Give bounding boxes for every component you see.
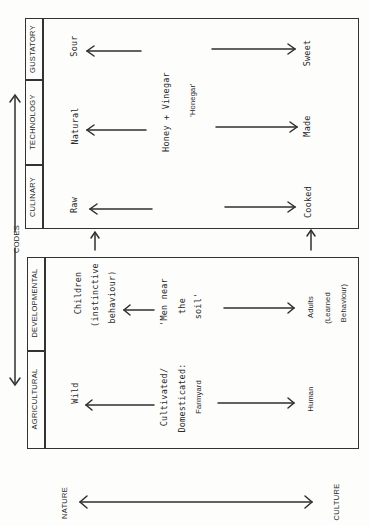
arrow-right-human-icon [218,398,294,408]
nature-culture-axis-arrow-icon [80,496,312,508]
arrow-right-adults-icon [224,303,294,313]
arrows-layer [0,0,370,525]
arrow-right-cooked-icon [225,202,295,212]
arrow-left-natural-icon [87,125,146,135]
codes-arrow-up-icon [10,95,20,232]
nature-culture-codes-diagram: GUSTATORY TECHNOLOGY CULINARY Sour Sweet… [0,0,370,525]
arrow-left-wild-icon [86,400,154,410]
arrow-up-between-right-icon [307,230,315,250]
arrow-right-sweet-icon [212,44,295,54]
arrow-left-sour-icon [87,46,141,56]
arrow-left-raw-icon [90,204,152,214]
arrow-left-children-icon [124,305,154,315]
arrow-up-between-left-icon [91,232,99,250]
codes-arrow-down-icon [10,248,20,385]
arrow-right-made-icon [216,122,297,132]
